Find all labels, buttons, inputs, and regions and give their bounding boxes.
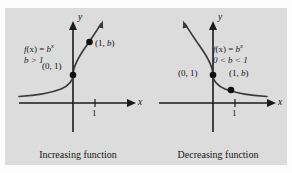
point-label-base-post: )	[112, 38, 115, 48]
plot-graphic-increasing	[5, 8, 151, 140]
point-dot-y-intercept	[210, 72, 217, 79]
point-dot-base	[228, 87, 235, 94]
x-axis-label: x	[138, 97, 142, 107]
x-axis-label: x	[278, 97, 282, 107]
function-argument: (x) =	[27, 44, 47, 54]
function-equation-line: f(x) = bx	[24, 44, 54, 55]
point-dot-base	[86, 39, 93, 46]
curve-arrowhead	[183, 21, 188, 29]
function-exponent: x	[240, 42, 243, 49]
point-label-base-pre: (1,	[95, 38, 107, 48]
y-axis-label: y	[78, 12, 82, 22]
x-axis-arrowhead	[127, 99, 136, 107]
plot-panel-decreasing: y x 1 f(x) = bx 0 < b < 1 (0, 1) (1, b) …	[145, 8, 291, 165]
point-label-base: (1, b)	[95, 38, 115, 48]
function-exponent: x	[51, 42, 54, 49]
y-axis-arrowhead	[209, 21, 217, 30]
function-argument: (x) =	[216, 44, 236, 54]
plot-panel-increasing: y x 1 f(x) = bx b > 1 (0, 1) (1, b) Incr…	[5, 8, 151, 165]
point-label-base: (1, b)	[229, 68, 249, 78]
x-tick-label-1: 1	[92, 108, 97, 118]
caption-increasing: Increasing function	[5, 149, 151, 160]
function-equation-line: f(x) = bx	[213, 44, 248, 55]
function-condition: 0 < b < 1	[213, 55, 248, 66]
figure-panel-background: y x 1 f(x) = bx b > 1 (0, 1) (1, b) Incr…	[5, 8, 287, 165]
x-tick-label-1: 1	[232, 108, 237, 118]
y-axis-label: y	[218, 12, 222, 22]
x-axis-arrowhead	[267, 99, 276, 107]
point-label-base-post: )	[246, 68, 249, 78]
caption-decreasing: Decreasing function	[145, 149, 291, 160]
point-dot-y-intercept	[70, 72, 77, 79]
y-axis-arrowhead	[69, 21, 77, 30]
curve-arrowhead	[98, 21, 103, 29]
point-label-y-intercept: (0, 1)	[178, 68, 198, 78]
function-formula-decreasing: f(x) = bx 0 < b < 1	[213, 44, 248, 66]
plot-graphic-decreasing	[145, 8, 291, 140]
figure-root: y x 1 f(x) = bx b > 1 (0, 1) (1, b) Incr…	[0, 0, 292, 173]
point-label-base-pre: (1,	[229, 68, 241, 78]
point-label-y-intercept: (0, 1)	[42, 61, 62, 71]
